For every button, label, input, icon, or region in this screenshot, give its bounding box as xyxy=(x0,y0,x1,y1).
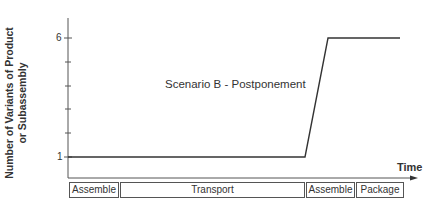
y-tick-label-6: 6 xyxy=(56,32,62,43)
phase-assemble-2: Assemble xyxy=(306,182,355,198)
x-axis-label: Time xyxy=(397,161,422,173)
phase-assemble-1: Assemble xyxy=(69,182,119,198)
y-axis-label: Number of Variants of Product or Subasse… xyxy=(3,23,33,183)
phase-package: Package xyxy=(356,182,404,198)
x-axis-arrow-icon xyxy=(410,176,418,181)
y-tick-label-1: 1 xyxy=(57,151,63,162)
phase-transport: Transport xyxy=(120,182,305,198)
series-line-scenario-b xyxy=(68,38,400,157)
y-axis-label-line-1: Number of Variants of Product xyxy=(3,23,16,183)
y-axis-label-line-2: or Subassembly xyxy=(16,23,29,183)
scenario-annotation: Scenario B - Postponement xyxy=(165,78,306,90)
chart-plot-area xyxy=(0,0,448,212)
